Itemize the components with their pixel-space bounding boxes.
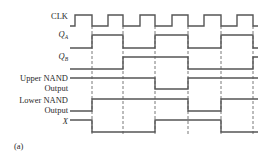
label-lower-nand: Lower NAND [19, 95, 68, 105]
waveform-qb [70, 57, 258, 69]
label-subscript: A [64, 34, 69, 40]
waveform-x [70, 120, 258, 132]
waveform-clk [70, 15, 258, 26]
waveforms [70, 15, 258, 132]
label-upper-nand: Upper NAND [20, 73, 68, 83]
waveform-qa [70, 35, 258, 48]
label-clk: CLK [51, 11, 69, 21]
label-subscript: B [65, 56, 69, 62]
figure-caption: (a) [14, 141, 24, 151]
signal-labels: CLKQAQBUpper NANDOutputLower NANDOutputX [19, 11, 69, 126]
label-qa: QA [58, 29, 68, 40]
label-lower-nand: Output [44, 105, 68, 115]
label-upper-nand: Output [44, 83, 68, 93]
label-x: X [62, 116, 69, 126]
waveform-lower-nand [70, 99, 258, 111]
waveform-upper-nand [70, 78, 258, 89]
dashed-time-markers [92, 26, 253, 134]
timing-diagram: CLKQAQBUpper NANDOutputLower NANDOutputX… [0, 0, 278, 152]
label-qb: QB [58, 51, 68, 62]
